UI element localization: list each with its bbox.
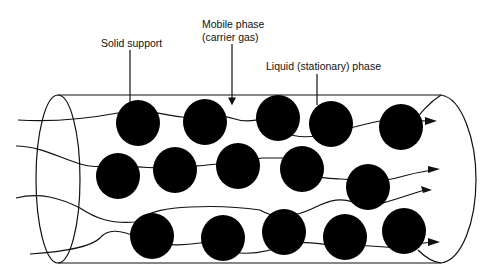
solid-support-particle xyxy=(183,99,227,145)
solid-support-label: Solid support xyxy=(101,37,162,49)
solid-support-particle xyxy=(153,147,197,193)
solid-support-particle xyxy=(379,104,423,150)
solid-support-particle xyxy=(382,208,426,254)
arrowhead-icon xyxy=(425,117,437,125)
arrowhead-icon xyxy=(421,186,432,193)
arrowhead-icon xyxy=(428,166,440,173)
solid-support-particle xyxy=(130,213,174,259)
mobile-phase-arrowhead xyxy=(229,98,235,104)
solid-support-particle xyxy=(280,146,324,192)
mobile-phase-label-line1: Mobile phase xyxy=(202,18,264,30)
solid-support-particle xyxy=(216,143,260,189)
solid-support-particle xyxy=(346,164,390,210)
arrowhead-icon xyxy=(428,238,440,246)
column-outlet-end-inner-bottom xyxy=(418,250,441,263)
solid-support-particle xyxy=(96,153,140,199)
liquid-stationary-phase-label: Liquid (stationary) phase xyxy=(266,60,381,72)
solid-support-particle xyxy=(323,214,367,260)
solid-support-particle xyxy=(309,101,353,147)
solid-support-particle xyxy=(116,100,160,146)
solid-support-particle xyxy=(256,95,300,141)
column-outlet-end xyxy=(441,95,476,263)
solid-support-particle xyxy=(262,209,306,255)
solid-support-particle xyxy=(201,215,245,261)
mobile-phase-label-line2: (carrier gas) xyxy=(202,31,259,43)
solid-support-particles xyxy=(96,95,426,261)
